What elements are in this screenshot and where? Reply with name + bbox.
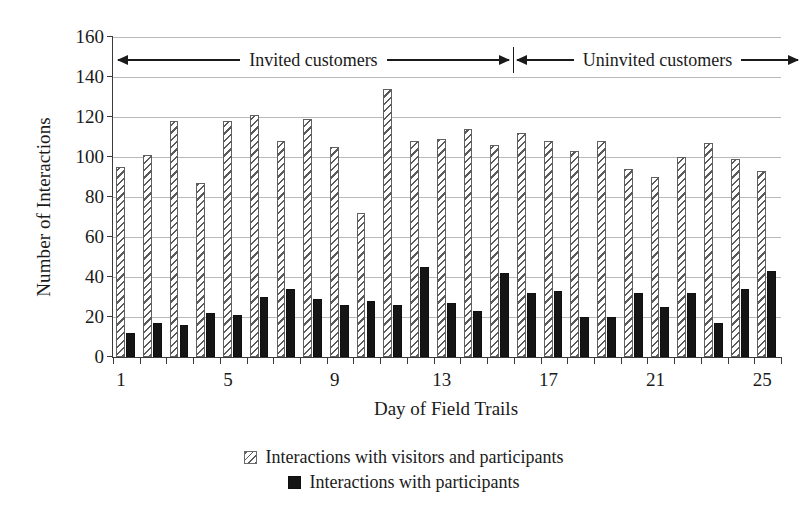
bar-group <box>140 37 167 357</box>
bar-visitors-and-participants <box>170 121 179 357</box>
segment-divider <box>513 47 514 73</box>
bar-group <box>353 37 380 357</box>
x-axis-tick <box>541 357 542 364</box>
bar-visitors-and-participants <box>250 115 259 357</box>
x-axis-tick <box>327 357 328 364</box>
bar-group <box>701 37 728 357</box>
x-axis-tick <box>113 357 114 364</box>
bar-visitors-and-participants <box>490 145 499 357</box>
bar-visitors-and-participants <box>677 157 686 357</box>
bar-visitors-and-participants <box>544 141 553 357</box>
y-axis-tick-label: 0 <box>44 346 113 368</box>
bar-group <box>594 37 621 357</box>
bar-visitors-and-participants <box>570 151 579 357</box>
bar-participants <box>607 317 616 357</box>
bar-participants <box>153 323 162 357</box>
bar-participants <box>660 307 669 357</box>
bar-chart-figure: Number of Interactions 02040608010012014… <box>0 0 807 509</box>
annotation-uninvited-label: Uninvited customers <box>574 51 741 69</box>
x-axis-tick <box>674 357 675 364</box>
x-axis-tick <box>567 357 568 364</box>
x-axis-tick <box>407 357 408 364</box>
bar-visitors-and-participants <box>330 147 339 357</box>
x-axis-tick <box>140 357 141 364</box>
bar-participants <box>500 273 509 357</box>
x-axis-tick <box>594 357 595 364</box>
x-axis-title: Day of Field Trails <box>112 398 780 420</box>
bar-visitors-and-participants <box>437 139 446 357</box>
x-axis-tick <box>300 357 301 364</box>
annotation-uninvited-customers: Uninvited customers <box>517 49 798 71</box>
bar-visitors-and-participants <box>143 155 152 357</box>
legend-item-label: Interactions with participants <box>310 472 520 493</box>
bar-visitors-and-participants <box>116 167 125 357</box>
annotation-invited-customers: Invited customers <box>118 49 509 71</box>
bar-participants <box>313 299 322 357</box>
bar-participants <box>714 323 723 357</box>
x-axis-tick <box>193 357 194 364</box>
bar-visitors-and-participants <box>277 141 286 357</box>
bar-group <box>728 37 755 357</box>
bar-participants <box>233 315 242 357</box>
bar-group <box>514 37 541 357</box>
bar-group <box>193 37 220 357</box>
bar-group <box>380 37 407 357</box>
bar-participants <box>206 313 215 357</box>
bar-participants <box>527 293 536 357</box>
x-axis-tick <box>621 357 622 364</box>
bar-group <box>460 37 487 357</box>
bar-visitors-and-participants <box>196 183 205 357</box>
x-axis-tick <box>460 357 461 364</box>
bar-participants <box>260 297 269 357</box>
x-axis-tick-label: 21 <box>635 369 675 391</box>
x-axis-tick <box>754 357 755 364</box>
x-axis-tick-label: 5 <box>208 369 248 391</box>
bar-participants <box>473 311 482 357</box>
bar-group <box>647 37 674 357</box>
annotation-invited-label: Invited customers <box>240 51 386 69</box>
bar-participants <box>286 289 295 357</box>
arrow-right-invited <box>387 59 509 61</box>
bar-visitors-and-participants <box>410 141 419 357</box>
x-axis-tick <box>781 357 782 364</box>
bar-visitors-and-participants <box>704 143 713 357</box>
bar-group <box>220 37 247 357</box>
bar-participants <box>126 333 135 357</box>
bar-visitors-and-participants <box>517 133 526 357</box>
bar-visitors-and-participants <box>464 129 473 357</box>
bar-participants <box>447 303 456 357</box>
bar-group <box>113 37 140 357</box>
bar-participants <box>367 301 376 357</box>
y-axis-tick-label: 60 <box>44 226 113 248</box>
bar-participants <box>420 267 429 357</box>
y-axis-tick-label: 40 <box>44 266 113 288</box>
bar-group <box>567 37 594 357</box>
bar-group <box>300 37 327 357</box>
x-axis-tick <box>701 357 702 364</box>
bar-participants <box>554 291 563 357</box>
bar-participants <box>180 325 189 357</box>
bar-participants <box>580 317 589 357</box>
legend-item: Interactions with participants <box>288 472 520 493</box>
bar-participants <box>687 293 696 357</box>
bar-participants <box>393 305 402 357</box>
y-axis-tick-label: 120 <box>44 106 113 128</box>
arrow-left-uninvited <box>517 59 574 61</box>
y-axis-tick-label: 20 <box>44 306 113 328</box>
bar-visitors-and-participants <box>383 89 392 357</box>
plot-area: 02040608010012014016015913172125 <box>112 37 781 358</box>
x-axis-tick-label: 13 <box>422 369 462 391</box>
bar-visitors-and-participants <box>624 169 633 357</box>
x-axis-tick <box>728 357 729 364</box>
bar-visitors-and-participants <box>731 159 740 357</box>
bar-group <box>674 37 701 357</box>
y-axis-tick-label: 100 <box>44 146 113 168</box>
chart-legend: Interactions with visitors and participa… <box>0 447 807 493</box>
bar-visitors-and-participants <box>597 141 606 357</box>
bar-group <box>434 37 461 357</box>
bar-participants <box>767 271 776 357</box>
bar-visitors-and-participants <box>757 171 766 357</box>
bar-group <box>327 37 354 357</box>
x-axis-tick <box>247 357 248 364</box>
bar-visitors-and-participants <box>651 177 660 357</box>
